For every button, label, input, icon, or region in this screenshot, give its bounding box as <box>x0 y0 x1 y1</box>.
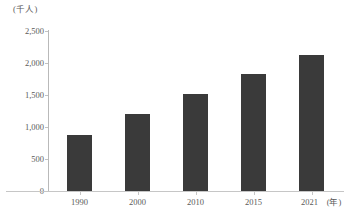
bar-2000 <box>125 114 150 191</box>
x-tick-mark-1990 <box>80 192 81 195</box>
bar-1990 <box>67 135 92 191</box>
bar-2021 <box>299 55 324 191</box>
bar-chart: (千人) 2,500 2,000 1,500 1,000 500 0 1990 … <box>0 0 350 222</box>
y-tick-label-2500: 2,500 <box>25 27 44 36</box>
y-axis-tick-labels: 2,500 2,000 1,500 1,000 500 0 <box>0 0 44 222</box>
plot-area <box>48 31 344 191</box>
x-axis-line <box>6 191 344 192</box>
x-tick-mark-2021 <box>312 192 313 195</box>
x-tick-label-2021: 2021 <box>301 198 318 207</box>
y-tick-label-500: 500 <box>31 155 44 164</box>
y-tick-label-1000: 1,000 <box>25 123 44 132</box>
x-axis-unit-label: (年) <box>327 198 342 207</box>
x-tick-mark-2000 <box>138 192 139 195</box>
x-tick-label-1990: 1990 <box>71 198 88 207</box>
x-tick-label-2000: 2000 <box>129 198 146 207</box>
y-tick-label-1500: 1,500 <box>25 91 44 100</box>
bar-2010 <box>183 94 208 191</box>
x-tick-mark-2015 <box>254 192 255 195</box>
x-tick-mark-2010 <box>196 192 197 195</box>
x-tick-label-2010: 2010 <box>187 198 204 207</box>
y-tick-label-2000: 2,000 <box>25 59 44 68</box>
bar-2015 <box>241 74 266 191</box>
x-tick-label-2015: 2015 <box>245 198 262 207</box>
